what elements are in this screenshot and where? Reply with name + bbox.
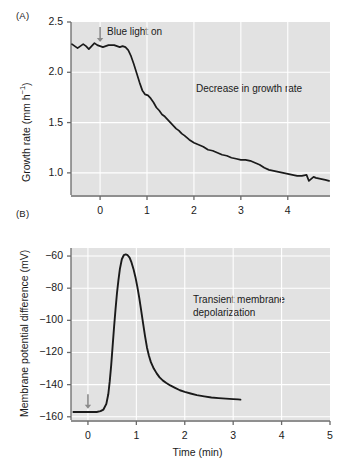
panel-a-x-tick-label: 0 [90,204,110,216]
panel-a-x-tick-label: 4 [278,204,298,216]
panel-b-x-tick-label: 1 [126,429,146,441]
panel-b-x-tick-label: 0 [78,429,98,441]
panel-b-y-tick-label: −140 [17,378,63,390]
panel-b-y-tick-label: −100 [17,313,63,325]
panel-a-x-tick-label: 2 [184,204,204,216]
panel-a-stimulus-arrow-head [97,38,103,42]
panel-a-x-tick-label: 3 [231,204,251,216]
panel-b-x-tick-label: 3 [223,429,243,441]
panel-b-x-tick-label: 5 [320,429,340,441]
panel-a-y-tick-label: 2.5 [17,15,63,27]
panel-a-y-tick-label: 1.0 [17,166,63,178]
panel-b-stimulus-arrow-head [85,405,91,409]
panel-b-y-tick-label: −120 [17,345,63,357]
panel-b-y-tick-label: −160 [17,410,63,422]
panel-b-y-tick-label: −80 [17,281,63,293]
figure-container: (A) (B) Growth rate (mm h−1) Decrease in… [0,0,343,469]
panel-b-x-tick-label: 2 [175,429,195,441]
panel-b-y-tick-label: −60 [17,249,63,261]
panel-a-y-tick-label: 2.0 [17,65,63,77]
panel-b-x-tick-label: 4 [272,429,292,441]
panel-a-y-tick-label: 1.5 [17,116,63,128]
panel-a-data-line [72,43,329,181]
panel-a-x-tick-label: 1 [137,204,157,216]
panel-b-data-line [73,254,240,412]
